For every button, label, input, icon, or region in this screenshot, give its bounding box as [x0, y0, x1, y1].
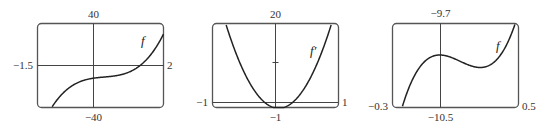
function-label: f [141, 33, 147, 48]
panel-f-zoomed: −9.7 −10.5 −0.3 0.5 f [368, 7, 536, 123]
ymax-label: 20 [270, 8, 282, 20]
figure: 40 −40 −1.5 2 f 20 −1 −1 1 f′ −9.7 −10.5… [0, 0, 549, 128]
xmax-label: 1 [342, 96, 348, 108]
curve-f-prime [226, 25, 331, 108]
panel-frame [393, 24, 519, 108]
ymax-label: 40 [88, 8, 100, 20]
xmin-label: −1 [196, 96, 208, 108]
curve-f [52, 34, 163, 107]
ymax-label: −9.7 [431, 7, 451, 19]
xmax-label: 2 [167, 59, 173, 71]
curve-f [402, 25, 514, 107]
panel-f: 40 −40 −1.5 2 f [13, 8, 172, 123]
ymin-label: −10.5 [428, 111, 454, 123]
function-label: f [496, 38, 502, 53]
ymin-label: −40 [85, 111, 103, 123]
xmin-label: −0.3 [368, 100, 388, 112]
xmax-label: 0.5 [522, 100, 536, 112]
xmin-label: −1.5 [13, 59, 33, 71]
function-label: f′ [310, 43, 317, 58]
ymin-label: −1 [270, 111, 282, 123]
panel-f-prime: 20 −1 −1 1 f′ [196, 8, 347, 123]
